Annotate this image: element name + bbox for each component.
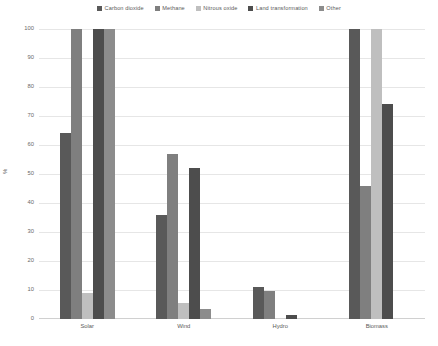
bar[interactable] [382,104,393,319]
bar[interactable] [167,154,178,319]
y-axis-tick-label: 80 [4,84,34,90]
y-axis-tick-label: 50 [4,171,34,177]
legend-label: Carbon dioxide [105,6,144,12]
legend-label: Methane [162,6,185,12]
chart-legend: Carbon dioxideMethaneNitrous oxideLand t… [0,6,438,12]
bar[interactable] [104,29,115,319]
x-axis-category-label: Solar [39,324,136,330]
y-axis-tick-label: 40 [4,200,34,206]
legend-item[interactable]: Carbon dioxide [97,6,144,12]
x-axis-category-label: Biomass [329,324,426,330]
bar[interactable] [200,309,211,319]
bar[interactable] [253,287,264,319]
bar-chart: Carbon dioxideMethaneNitrous oxideLand t… [0,0,438,346]
y-axis-tick-label: 100 [4,26,34,32]
legend-item[interactable]: Other [319,6,341,12]
bar[interactable] [349,29,360,319]
legend-item[interactable]: Nitrous oxide [196,6,238,12]
x-axis-category-label: Hydro [232,324,329,330]
y-axis-tick-labels: 1009080706050403020100 [0,29,34,319]
y-axis-tick-label: 0 [4,316,34,322]
bar[interactable] [156,215,167,319]
bar[interactable] [264,291,275,319]
legend-item[interactable]: Land transformation [248,6,307,12]
y-axis-tick-label: 30 [4,229,34,235]
bar[interactable] [286,315,297,319]
bar-group [232,29,329,319]
legend-swatch-icon [196,6,201,11]
bar[interactable] [82,293,93,319]
bar[interactable] [189,168,200,319]
x-axis-category-labels: SolarWindHydroBiomass [39,324,425,330]
legend-swatch-icon [248,6,253,11]
legend-swatch-icon [319,6,324,11]
bar-group [329,29,426,319]
bar[interactable] [371,29,382,319]
legend-label: Nitrous oxide [203,6,237,12]
bar[interactable] [178,303,189,319]
y-axis-tick-label: 70 [4,113,34,119]
bar[interactable] [71,29,82,319]
legend-label: Other [326,6,341,12]
legend-swatch-icon [155,6,160,11]
bar-groups [39,29,425,319]
legend-item[interactable]: Methane [155,6,185,12]
y-axis-tick-label: 90 [4,55,34,61]
legend-swatch-icon [97,6,102,11]
plot-area [39,29,425,319]
legend-label: Land transformation [256,6,308,12]
bar[interactable] [93,29,104,319]
y-axis-tick-label: 60 [4,142,34,148]
bar-group [136,29,233,319]
bar-group [39,29,136,319]
bar[interactable] [60,133,71,319]
bar[interactable] [360,186,371,319]
x-axis-category-label: Wind [136,324,233,330]
y-axis-tick-label: 20 [4,258,34,264]
y-axis-tick-label: 10 [4,287,34,293]
